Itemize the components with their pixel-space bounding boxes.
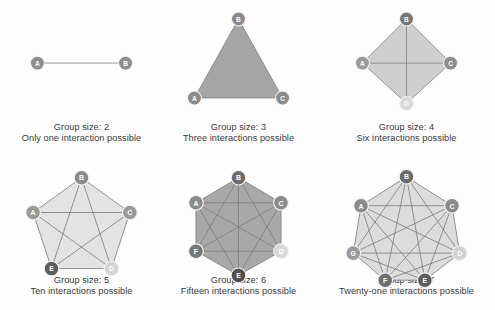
node-C: C <box>274 195 289 210</box>
node-label-B: B <box>123 60 128 67</box>
node-B: B <box>400 12 414 26</box>
node-label-E: E <box>236 272 241 279</box>
caption-group-size: Group size: 2 <box>4 122 159 133</box>
node-D: D <box>274 244 289 259</box>
node-E: E <box>231 268 246 283</box>
graph-canvas: BCDEFA <box>161 168 316 286</box>
node-C: C <box>444 56 458 70</box>
node-E: E <box>44 261 59 276</box>
caption-group-size-3: Group size: 3Three interactions possible <box>161 122 316 145</box>
node-G: G <box>346 246 361 261</box>
node-F: F <box>378 273 393 288</box>
caption-interactions: Only one interaction possible <box>4 133 159 144</box>
node-label-B: B <box>236 16 241 23</box>
node-label-D: D <box>457 250 462 257</box>
node-label-C: C <box>279 200 284 207</box>
node-label-A: A <box>35 60 40 67</box>
node-label-C: C <box>448 60 453 67</box>
panel-group-size-3: BCAGroup size: 3Three interactions possi… <box>161 8 316 145</box>
node-label-G: G <box>351 250 356 257</box>
node-label-E: E <box>49 265 54 272</box>
caption-interactions: Six interactions possible <box>324 133 489 144</box>
caption-interactions: Twenty-one interactions possible <box>324 286 489 297</box>
node-label-D: D <box>404 100 409 107</box>
panel-group-size-6: BCDEFAGroup size: 6Fifteen interactions … <box>161 168 316 298</box>
graph-group-size-6: BCDEFA <box>161 168 316 286</box>
graph-group-size-5: BCDEA <box>4 168 159 286</box>
node-B: B <box>231 170 246 185</box>
node-label-E: E <box>423 277 428 284</box>
caption-group-size: Group size: 4 <box>324 122 489 133</box>
node-D: D <box>104 261 119 276</box>
graph-group-size-4: BCDA <box>324 8 489 120</box>
caption-group-size-2: Group size: 2Only one interaction possib… <box>4 122 159 145</box>
graph-canvas: BCDEFGA <box>324 168 489 286</box>
caption-interactions: Three interactions possible <box>161 133 316 144</box>
node-A: A <box>187 91 201 105</box>
node-D: D <box>400 96 414 110</box>
node-B: B <box>119 56 133 70</box>
graph-canvas: BCDEA <box>4 168 159 286</box>
caption-interactions: Fifteen interactions possible <box>161 286 316 297</box>
node-D: D <box>452 246 467 261</box>
graph-canvas: BCA <box>161 8 316 120</box>
node-label-D: D <box>279 248 284 255</box>
panel-group-size-7: BCDEFGAGroup size: 7Twenty-one interacti… <box>324 168 489 298</box>
node-A: A <box>26 205 41 220</box>
node-A: A <box>354 198 369 213</box>
node-B: B <box>399 169 414 184</box>
caption-group-size: Group size: 3 <box>161 122 316 133</box>
node-label-B: B <box>79 174 84 181</box>
node-B: B <box>74 170 89 185</box>
graph-group-size-2: AB <box>4 8 159 120</box>
panel-group-size-4: BCDAGroup size: 4Six interactions possib… <box>324 8 489 145</box>
node-label-B: B <box>404 16 409 23</box>
caption-group-size-4: Group size: 4Six interactions possible <box>324 122 489 145</box>
node-F: F <box>189 244 204 259</box>
node-C: C <box>276 91 290 105</box>
node-label-A: A <box>192 95 197 102</box>
node-B: B <box>232 12 246 26</box>
node-label-A: A <box>31 209 36 216</box>
node-label-C: C <box>280 95 285 102</box>
node-A: A <box>355 56 369 70</box>
graph-group-size-3: BCA <box>161 8 316 120</box>
node-label-C: C <box>127 209 132 216</box>
node-label-D: D <box>109 265 114 272</box>
node-label-A: A <box>193 200 198 207</box>
panel-group-size-5: BCDEAGroup size: 5Ten interactions possi… <box>4 168 159 298</box>
graph-group-size-7: BCDEFGA <box>324 168 489 286</box>
node-C: C <box>123 205 138 220</box>
graph-canvas: AB <box>4 8 159 120</box>
polygon-fill <box>194 19 282 98</box>
node-A: A <box>30 56 44 70</box>
node-label-F: F <box>383 277 387 284</box>
node-label-B: B <box>236 174 241 181</box>
node-E: E <box>418 273 433 288</box>
node-label-C: C <box>449 203 454 210</box>
graph-canvas: BCDA <box>324 8 489 120</box>
group-interaction-diagram: ABGroup size: 2Only one interaction poss… <box>0 0 495 310</box>
node-A: A <box>189 195 204 210</box>
node-label-B: B <box>404 173 409 180</box>
node-C: C <box>445 198 460 213</box>
panel-group-size-2: ABGroup size: 2Only one interaction poss… <box>4 8 159 145</box>
node-label-A: A <box>359 203 364 210</box>
node-label-A: A <box>360 60 365 67</box>
caption-interactions: Ten interactions possible <box>4 286 159 297</box>
node-label-F: F <box>194 248 198 255</box>
